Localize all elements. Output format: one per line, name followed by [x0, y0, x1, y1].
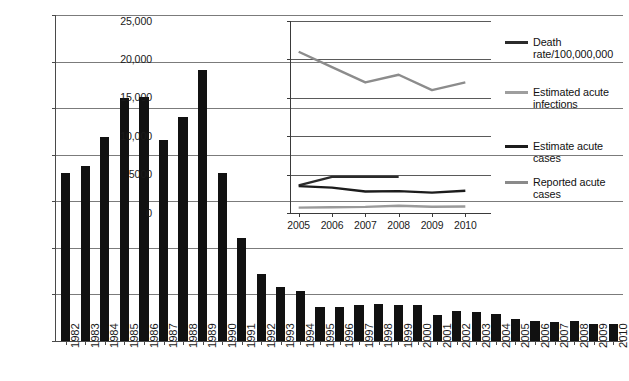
legend-color-swatch — [505, 145, 528, 148]
inset-x-axis-label: 2005 — [283, 221, 315, 231]
bar-1987 — [159, 140, 168, 341]
main-y-tick — [52, 248, 56, 249]
inset-x-tick — [432, 213, 433, 217]
legend-color-swatch — [505, 41, 528, 44]
bar-1984 — [100, 137, 109, 341]
legend-color-swatch — [505, 91, 528, 94]
main-y-tick — [52, 294, 56, 295]
inset-plot-area: 25,00020,00015,00010,0005000020052006200… — [290, 21, 490, 213]
inset-x-axis-label: 2010 — [449, 221, 481, 231]
legend-label: Estimate acute cases — [533, 140, 625, 165]
inset-series-estimate-acute-cases — [299, 177, 399, 185]
inset-x-tick — [299, 213, 300, 217]
inset-x-tick — [365, 213, 366, 217]
inset-y-axis-label: 5000 — [129, 169, 152, 180]
main-y-tick — [52, 201, 56, 202]
bar-1983 — [81, 166, 90, 341]
bar-1990 — [218, 173, 227, 341]
main-x-axis-label: 2010 — [618, 323, 629, 348]
legend-label: Reported acute cases — [533, 176, 625, 201]
main-y-tick — [52, 62, 56, 63]
inset-x-axis-label: 2008 — [383, 221, 415, 231]
inset-x-tick — [465, 213, 466, 217]
main-y-tick — [52, 108, 56, 109]
main-y-tick — [52, 155, 56, 156]
main-baseline — [56, 341, 623, 342]
inset-x-axis-label: 2006 — [316, 221, 348, 231]
legend-color-swatch — [505, 181, 528, 184]
inset-x-axis-label: 2009 — [416, 221, 448, 231]
legend-label: Estimated acute infections — [533, 86, 625, 111]
inset-x-tick — [332, 213, 333, 217]
inset-x-axis-label: 2007 — [349, 221, 381, 231]
inset-y-axis-label: 15,000 — [120, 92, 152, 103]
bar-1982 — [61, 173, 70, 341]
inset-y-axis-label: 20,000 — [120, 54, 152, 65]
inset-series-estimated-acute-infections — [299, 52, 466, 90]
inset-y-axis-label: 0 — [146, 208, 152, 219]
inset-y-axis-label: 10,000 — [120, 131, 152, 142]
legend-label: Death rate/100,000,000 — [533, 36, 625, 61]
inset-series-death-rate-100-000-000 — [299, 186, 466, 193]
inset-series-lines — [291, 21, 491, 213]
bar-1989 — [198, 70, 207, 341]
inset-series-reported-acute-cases — [299, 206, 466, 208]
bar-1988 — [178, 117, 187, 341]
inset-y-axis-label: 25,000 — [120, 16, 152, 27]
main-y-tick — [52, 15, 56, 16]
inset-x-tick — [399, 213, 400, 217]
inset-x-axis — [291, 213, 491, 214]
